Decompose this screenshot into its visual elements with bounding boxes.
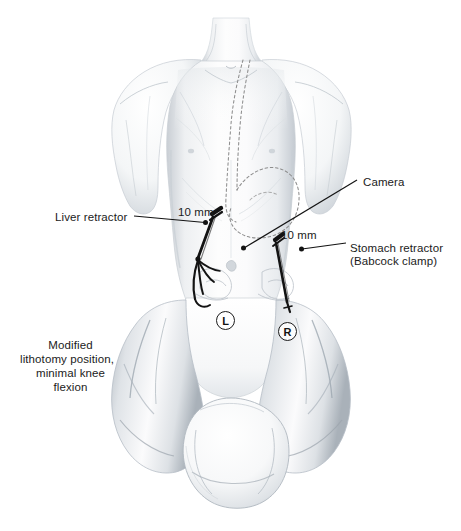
neck — [201, 18, 262, 62]
trocar-size-right-label: 10 mm — [281, 228, 317, 242]
position-note-line-3: minimal knee — [0, 366, 143, 380]
torso — [167, 61, 296, 300]
camera-label: Camera — [363, 175, 405, 189]
port-marker-left: L — [216, 311, 235, 330]
position-note-line-4: flexion — [0, 380, 143, 394]
port-marker-right: R — [278, 322, 297, 341]
nipple-right — [269, 149, 275, 154]
surgical-illustration-figure: Liver retractor Camera Stomach retractor… — [0, 0, 461, 531]
liver-retractor-label: Liver retractor — [55, 210, 127, 224]
babcock-clamp-label: (Babcock clamp) — [350, 254, 437, 268]
pelvis-and-legs — [112, 298, 351, 508]
nipple-left — [188, 149, 194, 154]
patient-position-note: Modified lithotomy position, minimal kne… — [0, 338, 143, 394]
position-note-line-1: Modified — [0, 338, 143, 352]
stomach-retractor-label: Stomach retractor — [350, 241, 443, 255]
position-note-line-2: lithotomy position, — [0, 352, 143, 366]
stomach-retractor-leader — [302, 243, 346, 249]
trocar-size-left-label: 10 mm — [178, 205, 214, 219]
